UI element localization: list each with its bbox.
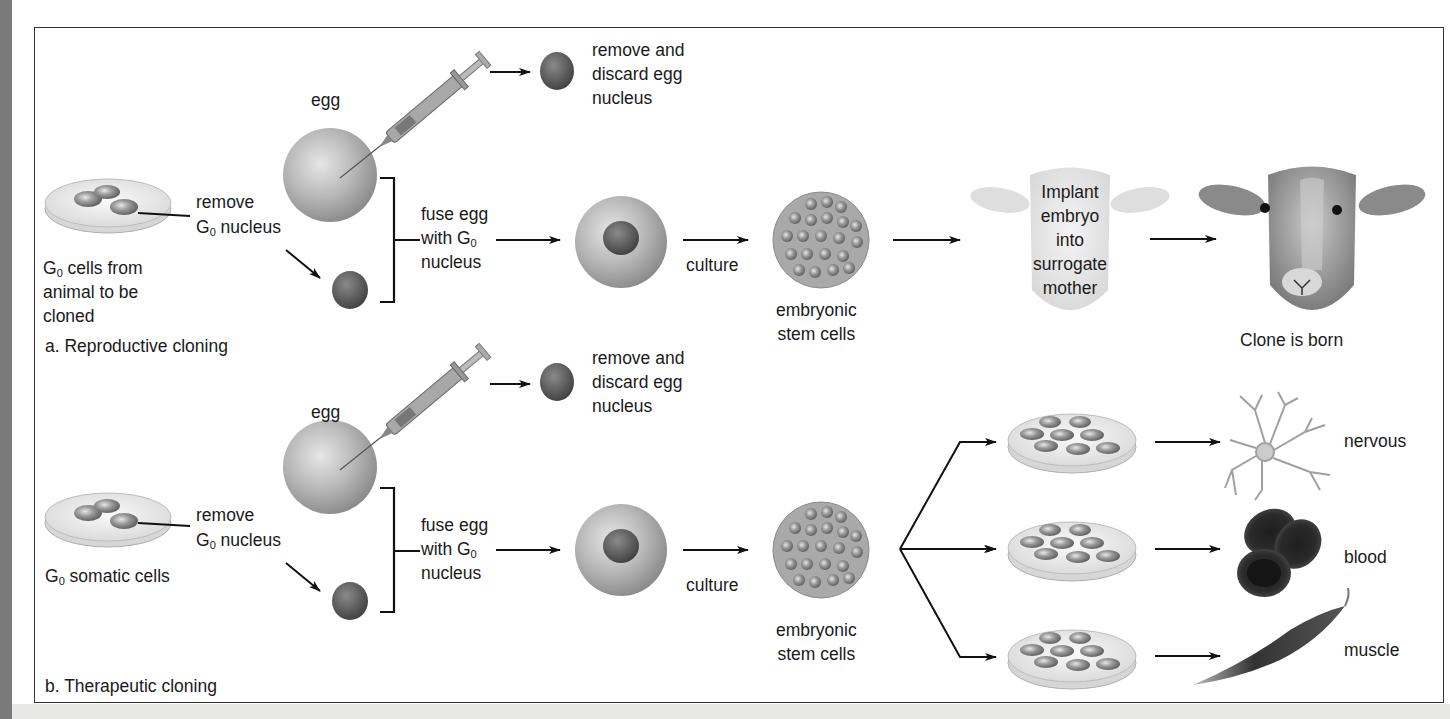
- remove-nucleus-label-b: remove G0 nucleus: [196, 503, 281, 553]
- egg-cell-icon: [283, 420, 377, 514]
- clone-born-label: Clone is born: [1240, 328, 1343, 353]
- discarded-nucleus-icon: [540, 363, 574, 401]
- discarded-nucleus-icon: [540, 52, 574, 90]
- culture-label-b: culture: [686, 573, 739, 598]
- culture-dish-icon: [1008, 414, 1136, 473]
- source-cells-label-b: G0 somatic cells: [45, 564, 170, 589]
- tissue-label-nervous: nervous: [1344, 429, 1406, 454]
- culture-dish-icon: [1008, 522, 1136, 581]
- implant-label: Implant embryo into surrogate mother: [1020, 180, 1120, 300]
- tissue-label-muscle: muscle: [1344, 638, 1399, 663]
- petri-dish-icon: [45, 493, 171, 547]
- cloned-sheep-icon: [1196, 167, 1428, 311]
- stem-cells-label-b: embryonic stem cells: [776, 618, 857, 666]
- diagram-artwork: [0, 0, 1450, 719]
- culture-label-a: culture: [686, 253, 739, 278]
- remove-nucleus-label-a: remove G0 nucleus: [196, 190, 281, 240]
- fuse-label-a: fuse egg with G0 nucleus: [421, 202, 488, 274]
- stem-cells-label-a: embryonic stem cells: [776, 298, 857, 346]
- petri-dish-icon: [45, 179, 171, 233]
- g0-nucleus-icon: [332, 582, 368, 620]
- source-cells-label-a: G0 cells from animal to be cloned: [43, 256, 142, 328]
- tissue-label-blood: blood: [1344, 545, 1387, 570]
- muscle-cell-icon: [1193, 588, 1349, 685]
- panel-a-title: a. Reproductive cloning: [45, 334, 228, 359]
- red-blood-cells-icon: [1236, 499, 1331, 597]
- egg-label-b: egg: [311, 400, 340, 425]
- fuse-label-b: fuse egg with G0 nucleus: [421, 513, 488, 585]
- neuron-icon: [1225, 392, 1330, 500]
- stem-cells-icon: [773, 502, 869, 598]
- egg-label-a: egg: [311, 88, 340, 113]
- g0-nucleus-icon: [332, 271, 368, 309]
- discard-nucleus-label-a: remove and discard egg nucleus: [592, 38, 684, 110]
- discard-nucleus-label-b: remove and discard egg nucleus: [592, 346, 684, 418]
- stem-cells-icon: [773, 192, 869, 288]
- egg-cell-icon: [283, 128, 377, 222]
- panel-b-title: b. Therapeutic cloning: [45, 674, 217, 699]
- culture-dish-icon: [1008, 630, 1136, 689]
